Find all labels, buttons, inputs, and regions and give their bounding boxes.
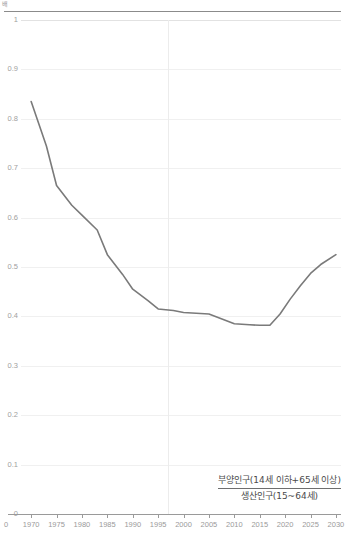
x-axis-tick-label: 1980 <box>74 520 91 530</box>
unit-caption: 배 <box>2 0 8 8</box>
y-axis-tick-label: 0.6 <box>8 214 18 222</box>
series-line-path <box>31 102 336 326</box>
legend-fraction-bar <box>218 488 341 489</box>
x-axis-tick <box>336 514 337 518</box>
x-axis-tick <box>234 514 235 518</box>
legend: 부양인구(14세 이하+65세 이상) 생산인구(15~64세) <box>218 474 341 503</box>
y-axis-tick-label: 0.3 <box>8 362 18 370</box>
x-axis-tick-label: 2015 <box>251 520 268 530</box>
x-axis-tick-label: 2020 <box>277 520 294 530</box>
x-axis-tick <box>107 514 108 518</box>
x-axis-tick-label: 2000 <box>175 520 192 530</box>
y-axis-tick-label: 0.9 <box>8 65 18 73</box>
x-axis-tick <box>311 514 312 518</box>
x-axis-tick-label: 1975 <box>48 520 65 530</box>
x-axis-tick <box>82 514 83 518</box>
y-axis-tick-label: 0.2 <box>8 411 18 419</box>
y-axis-tick-label: 0.5 <box>8 263 18 271</box>
x-axis-tick-label: 1970 <box>23 520 40 530</box>
x-axis-ticks <box>21 514 341 519</box>
plot-area <box>21 20 341 514</box>
x-axis-tick-label: 2010 <box>226 520 243 530</box>
x-axis-tick-label: 1995 <box>150 520 167 530</box>
dependency-ratio-chart: 배 10.90.80.70.60.50.40.30.20.10 19701975… <box>0 0 345 534</box>
x-axis-tick-label: 1990 <box>124 520 141 530</box>
x-axis-tick <box>260 514 261 518</box>
legend-denominator: 생산인구(15~64세) <box>218 490 341 503</box>
x-axis-labels: 1970197519801985199019952000200520102015… <box>0 520 345 534</box>
x-axis-tick <box>31 514 32 518</box>
x-axis-tick <box>209 514 210 518</box>
x-axis-tick <box>184 514 185 518</box>
x-axis-tick <box>133 514 134 518</box>
y-axis-tick-label: 0.7 <box>8 164 18 172</box>
top-rule <box>4 11 341 12</box>
x-axis-tick-label: 2005 <box>201 520 218 530</box>
y-axis-labels: 10.90.80.70.60.50.40.30.20.10 <box>0 20 20 514</box>
x-axis-tick <box>158 514 159 518</box>
x-axis-tick-label: 2030 <box>328 520 345 530</box>
x-axis-tick-label: 1985 <box>99 520 116 530</box>
legend-numerator: 부양인구(14세 이하+65세 이상) <box>218 474 341 487</box>
origin-label: 0 <box>4 520 8 530</box>
y-axis-tick-label: 0.8 <box>8 115 18 123</box>
series-line-svg <box>21 20 341 514</box>
y-axis-tick-label: 1 <box>14 16 18 24</box>
y-axis-tick-label: 0.4 <box>8 312 18 320</box>
y-axis-tick-label: 0.1 <box>8 461 18 469</box>
x-axis-tick-label: 2025 <box>302 520 319 530</box>
x-axis-tick <box>57 514 58 518</box>
x-axis-tick <box>285 514 286 518</box>
